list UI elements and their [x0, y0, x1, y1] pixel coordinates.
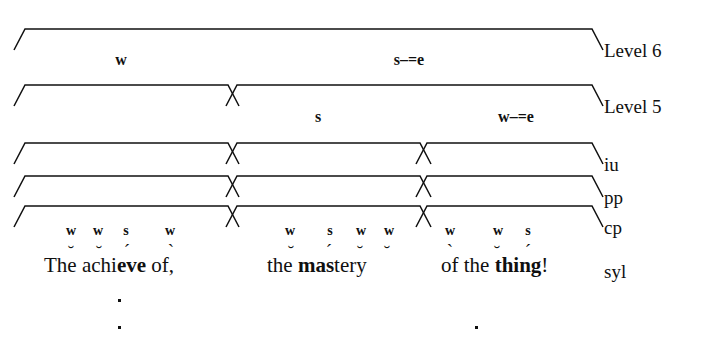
row-label-level6: Level 6 [604, 41, 662, 60]
node-label-l6-se: s–=e [394, 52, 424, 67]
scansion-mark-m8: ˘ [384, 243, 390, 262]
continuation-dot-dot-3 [475, 326, 478, 329]
terminal-strength-g1-t2: w [93, 224, 103, 238]
terminal-strength-g1-t1: w [66, 224, 76, 238]
verse-text-chunk-1: The achieve of, [44, 255, 174, 276]
stressed-syllable: eve [117, 253, 146, 277]
stressed-syllable: thing [495, 253, 542, 277]
verse-text-chunk-2: the mastery [267, 255, 367, 276]
terminal-strength-g3-t1: w [445, 224, 455, 238]
terminal-strength-g2-t3: w [356, 224, 366, 238]
node-label-l5-we: w–=e [498, 109, 534, 124]
row-label-cp: cp [604, 218, 622, 237]
continuation-dot-dot-2 [118, 326, 121, 329]
terminal-strength-g2-t1: w [285, 224, 295, 238]
metrical-tree-diagram: Level 6Level 5iuppcpsylws–=esw–=ewwswwsw… [0, 0, 702, 338]
node-label-l5-s: s [315, 109, 321, 124]
stressed-syllable: mas [298, 253, 334, 277]
terminal-strength-g3-t2: w [493, 224, 503, 238]
terminal-strength-g2-t4: w [384, 224, 394, 238]
label-layer: Level 6Level 5iuppcpsylws–=esw–=ewwswwsw… [0, 0, 702, 338]
continuation-dot-dot-1 [118, 299, 121, 302]
terminal-strength-g3-t3: s [525, 224, 530, 238]
row-label-iu: iu [604, 155, 619, 174]
row-label-syl: syl [604, 262, 626, 281]
terminal-strength-g2-t2: s [327, 224, 332, 238]
node-label-l6-w: w [115, 52, 127, 67]
terminal-strength-g1-t4: w [165, 224, 175, 238]
row-label-pp: pp [604, 188, 623, 207]
row-label-level5: Level 5 [604, 97, 662, 116]
terminal-strength-g1-t3: s [123, 224, 128, 238]
verse-text-chunk-3: of the thing! [441, 255, 548, 276]
